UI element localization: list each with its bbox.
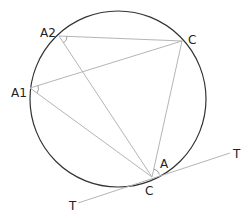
chord-a1-c [30,41,182,88]
label-t-left: T [68,199,77,213]
angle-arc-a [154,169,160,175]
label-c-top: C [188,33,196,47]
label-c-bottom: C [145,184,153,198]
chord-a1-cbottom [30,88,152,177]
label-a1: A1 [11,86,27,100]
tangent-line [78,153,230,203]
circle [30,11,206,187]
angle-arc-a2 [64,36,68,43]
label-t-right: T [232,147,241,161]
label-a2: A2 [40,26,56,40]
chord-a2-cbottom [59,36,152,177]
label-angle-a: A [160,157,169,171]
chord-a2-c [59,36,182,41]
geometry-diagram: A2 C A1 A C T T [0,0,250,218]
angle-arc-a1 [37,86,38,93]
